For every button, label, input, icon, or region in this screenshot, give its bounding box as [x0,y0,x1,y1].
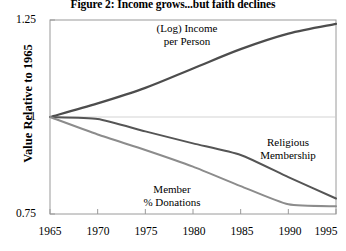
figure-container: Figure 2: Income grows...but faith decli… [0,0,346,251]
income-annotation-line2: per Person [132,35,242,48]
income-annotation-line1: (Log) Income [132,22,242,35]
donations-annotation-line1: Member [124,183,220,196]
donations-annotation-line2: % Donations [124,196,220,209]
religious-annotation-line2: Membership [238,149,338,162]
religious-membership-annotation: Religious Membership [238,136,338,161]
income-annotation: (Log) Income per Person [132,22,242,47]
religious-annotation-line1: Religious [238,136,338,149]
x-axis-ticks [50,209,336,214]
member-donations-annotation: Member % Donations [124,183,220,208]
